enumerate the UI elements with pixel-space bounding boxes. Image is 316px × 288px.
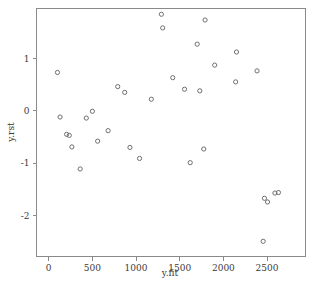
data-point-marker [90, 109, 94, 113]
data-point-marker [234, 80, 238, 84]
y-axis-ticks: 10-1-2 [21, 54, 37, 221]
data-point-marker [96, 139, 100, 143]
data-point-marker [188, 161, 192, 165]
data-point-marker [106, 129, 110, 133]
data-point-marker [255, 69, 259, 73]
data-point-marker [202, 147, 206, 151]
data-point-marker [67, 133, 71, 137]
y-tick-label: 1 [24, 54, 30, 64]
data-point-marker [213, 63, 217, 67]
data-point-marker [137, 156, 141, 160]
x-tick-label: 1000 [125, 263, 148, 273]
x-axis-label: y.fit [161, 268, 179, 278]
y-tick-label: -2 [21, 211, 30, 221]
data-point-marker [198, 89, 202, 93]
data-point-marker [265, 200, 269, 204]
data-point-marker [171, 76, 175, 80]
data-point-marker [159, 12, 163, 16]
data-point-marker [65, 132, 69, 136]
data-point-marker [203, 18, 207, 22]
x-tick-label: 2000 [212, 263, 235, 273]
data-point-marker [234, 50, 238, 54]
data-point-marker [161, 26, 165, 30]
scatter-plot-figure: 05001000150020002500 10-1-2 y.fit y.rst [0, 0, 316, 288]
data-point-marker [116, 85, 120, 89]
y-tick-label: 0 [24, 106, 30, 116]
data-point-marker [195, 42, 199, 46]
data-point-marker [261, 239, 265, 243]
data-points [55, 12, 280, 243]
x-tick-label: 0 [46, 263, 52, 273]
plot-canvas: 05001000150020002500 10-1-2 y.fit y.rst [0, 0, 316, 288]
data-point-marker [58, 115, 62, 119]
data-point-marker [123, 90, 127, 94]
data-point-marker [55, 70, 59, 74]
data-point-marker [84, 116, 88, 120]
data-point-marker [78, 167, 82, 171]
x-tick-label: 2500 [256, 263, 279, 273]
data-point-marker [149, 97, 153, 101]
y-axis-label: y.rst [6, 122, 16, 143]
data-point-marker [262, 196, 266, 200]
data-point-marker [182, 87, 186, 91]
data-point-marker [70, 145, 74, 149]
x-tick-label: 500 [84, 263, 101, 273]
plot-frame [37, 9, 306, 257]
plot-border [37, 9, 306, 257]
data-point-marker [128, 145, 132, 149]
y-tick-label: -1 [21, 158, 30, 168]
